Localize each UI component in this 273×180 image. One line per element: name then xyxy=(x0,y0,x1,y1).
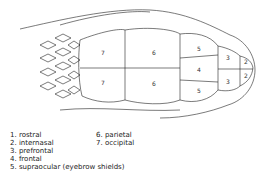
scale-label-prefrontal-bottom: 3 xyxy=(226,78,230,85)
scale-label-occipital-top: 7 xyxy=(101,49,105,56)
scale-label-internasal-top: 2 xyxy=(244,58,248,65)
legend-item-occipital: 7. occipital xyxy=(96,139,134,147)
scale-label-parietal-top: 6 xyxy=(152,49,156,56)
legend-item-prefrontal: 3. prefrontal xyxy=(10,147,125,155)
occipital-region xyxy=(79,29,125,102)
snake-head-diagram: 7 7 6 6 5 5 4 3 3 2 2 xyxy=(0,0,273,120)
scale-label-parietal-bottom: 6 xyxy=(152,80,156,87)
scale-label-occipital-bottom: 7 xyxy=(101,79,105,86)
scale-label-internasal-bottom: 2 xyxy=(244,72,248,79)
legend-item-supraocular: 5. supraocular (eyebrow shields) xyxy=(10,163,125,171)
parietal-region xyxy=(125,28,180,103)
legend-item-frontal: 4. frontal xyxy=(10,155,125,163)
scale-label-supraocular-bottom: 5 xyxy=(197,87,201,94)
legend-item-parietal: 6. parietal xyxy=(96,131,134,139)
scale-label-frontal: 4 xyxy=(197,66,201,73)
scale-label-prefrontal-top: 3 xyxy=(226,54,230,61)
head-outline xyxy=(20,10,255,118)
scale-label-supraocular-top: 5 xyxy=(197,45,201,52)
legend-right: 6. parietal 7. occipital xyxy=(96,131,134,147)
